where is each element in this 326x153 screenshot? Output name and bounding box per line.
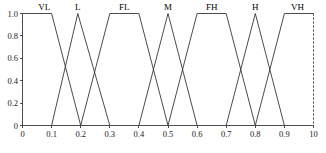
membership-curves xyxy=(23,14,314,126)
y-tick-label: 0.8 xyxy=(7,31,18,41)
y-tick-label: 0.4 xyxy=(7,76,18,86)
x-tick-label: 0.6 xyxy=(192,129,203,139)
membership-curve-l xyxy=(52,14,110,126)
x-tick-label: 0.1 xyxy=(46,129,57,139)
series-labels: VLLFLMFHHVH xyxy=(38,2,304,12)
x-tick-label: 0.7 xyxy=(221,129,232,139)
y-tick-label: 0.6 xyxy=(7,53,18,63)
y-tick-label: 0.2 xyxy=(7,98,18,108)
x-tick-label: 0.3 xyxy=(104,129,115,139)
x-axis-tick-labels: 00.10.20.30.40.50.60.70.80.910 xyxy=(20,126,317,140)
membership-curve-fh xyxy=(168,14,255,126)
membership-curve-h xyxy=(226,14,284,126)
membership-curve-vh xyxy=(255,14,313,126)
fuzzy-membership-chart: 00.10.20.30.40.50.60.70.80.910 00.20.40.… xyxy=(0,0,326,153)
x-tick-label: 10 xyxy=(309,129,318,139)
chart-canvas: 00.10.20.30.40.50.60.70.80.910 00.20.40.… xyxy=(0,0,326,153)
series-label-vl: VL xyxy=(38,2,50,12)
y-tick-label: 1.0 xyxy=(7,9,18,19)
y-axis-tick-labels: 00.20.40.60.81.0 xyxy=(7,9,22,131)
membership-curve-m xyxy=(139,14,197,126)
series-label-fl: FL xyxy=(119,2,130,12)
series-label-fh: FH xyxy=(206,2,218,12)
series-label-l: L xyxy=(75,2,81,12)
x-tick-label: 0.2 xyxy=(75,129,86,139)
y-tick-label: 0 xyxy=(14,121,18,131)
x-tick-label: 0.9 xyxy=(279,129,290,139)
series-label-h: H xyxy=(252,2,259,12)
x-tick-label: 0.4 xyxy=(134,129,145,139)
series-label-m: M xyxy=(164,2,172,12)
x-tick-label: 0.8 xyxy=(250,129,261,139)
membership-curve-vl xyxy=(23,14,81,126)
x-tick-label: 0.5 xyxy=(163,129,174,139)
series-label-vh: VH xyxy=(291,2,304,12)
x-tick-label: 0 xyxy=(20,129,24,139)
